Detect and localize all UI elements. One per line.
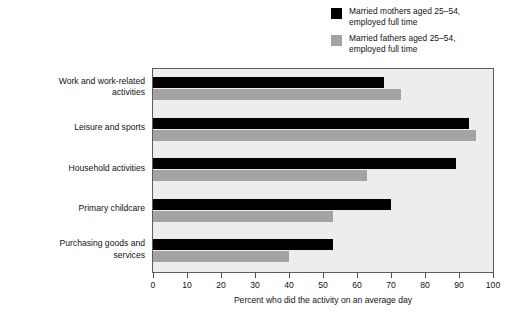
bar-mothers-purchasing xyxy=(153,239,333,250)
category-label-childcare: Primary childcare xyxy=(0,203,145,214)
legend-item-fathers: Married fathers aged 25–54, employed ful… xyxy=(331,33,517,54)
x-axis-tick-label-90: 90 xyxy=(454,280,464,290)
bar-group-work xyxy=(153,69,493,110)
x-axis-tick-70 xyxy=(391,273,392,278)
bar-fathers-childcare xyxy=(153,211,333,222)
chart-legend: Married mothers aged 25–54, employed ful… xyxy=(331,6,517,60)
bar-group-purchasing xyxy=(153,231,493,272)
bar-fathers-household xyxy=(153,170,367,181)
x-axis-tick-label-40: 40 xyxy=(284,280,294,290)
bar-fathers-purchasing xyxy=(153,251,289,262)
x-axis-tick-label-20: 20 xyxy=(216,280,226,290)
y-axis-category-labels: Work and work-related activities Leisure… xyxy=(0,68,145,273)
bar-mothers-childcare xyxy=(153,199,391,210)
x-axis: Percent who did the activity on an avera… xyxy=(152,273,494,317)
bar-fathers-leisure xyxy=(153,130,476,141)
x-axis-tick-90 xyxy=(459,273,460,278)
bar-group-leisure xyxy=(153,110,493,151)
legend-label-fathers: Married fathers aged 25–54, employed ful… xyxy=(349,33,456,54)
legend-item-mothers: Married mothers aged 25–54, employed ful… xyxy=(331,6,517,27)
bar-group-childcare xyxy=(153,191,493,232)
x-axis-title: Percent who did the activity on an avera… xyxy=(152,295,494,305)
x-axis-tick-100 xyxy=(493,273,494,278)
x-axis-tick-label-0: 0 xyxy=(151,280,156,290)
category-label-work: Work and work-related activities xyxy=(0,76,145,99)
category-label-household: Household activities xyxy=(0,163,145,174)
bar-mothers-leisure xyxy=(153,118,469,129)
x-axis-tick-label-50: 50 xyxy=(318,280,328,290)
x-axis-tick-label-70: 70 xyxy=(386,280,396,290)
x-axis-tick-80 xyxy=(425,273,426,278)
category-label-purchasing: Purchasing goods and services xyxy=(0,238,145,261)
x-axis-tick-label-100: 100 xyxy=(486,280,500,290)
x-axis-tick-label-80: 80 xyxy=(420,280,430,290)
x-axis-tick-20 xyxy=(221,273,222,278)
bar-group-household xyxy=(153,150,493,191)
legend-label-mothers: Married mothers aged 25–54, employed ful… xyxy=(349,6,460,27)
bar-fathers-work xyxy=(153,89,401,100)
legend-swatch-mothers xyxy=(331,8,342,19)
bars-container xyxy=(153,69,493,272)
legend-swatch-fathers xyxy=(331,35,342,46)
bar-mothers-household xyxy=(153,158,456,169)
x-axis-tick-10 xyxy=(187,273,188,278)
x-axis-tick-label-30: 30 xyxy=(250,280,260,290)
chart-figure: Married mothers aged 25–54, employed ful… xyxy=(0,0,518,317)
x-axis-tick-30 xyxy=(255,273,256,278)
bar-mothers-work xyxy=(153,77,384,88)
x-axis-tick-0 xyxy=(153,273,154,278)
category-label-leisure: Leisure and sports xyxy=(0,122,145,133)
x-axis-tick-50 xyxy=(323,273,324,278)
x-axis-tick-label-60: 60 xyxy=(352,280,362,290)
x-axis-tick-label-10: 10 xyxy=(182,280,192,290)
plot-area xyxy=(152,68,494,273)
x-axis-tick-40 xyxy=(289,273,290,278)
x-axis-tick-60 xyxy=(357,273,358,278)
